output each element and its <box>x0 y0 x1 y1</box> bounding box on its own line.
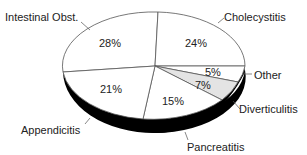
label-pancreatitis: Pancreatitis <box>187 141 244 153</box>
leader-appendicitis <box>85 118 90 124</box>
label-appendicitis: Appendicitis <box>21 124 80 136</box>
pct-diverticulitis: 7% <box>195 79 211 91</box>
pct-cholecystitis: 24% <box>185 37 207 49</box>
pct-pancreatitis: 15% <box>162 95 184 107</box>
leader-pancreatitis <box>185 132 188 140</box>
pct-intestinal-obst: 28% <box>99 37 121 49</box>
label-cholecystitis: Cholecystitis <box>224 11 286 23</box>
leader-intestinal-obst <box>81 22 90 30</box>
label-diverticulitis: Diverticulitis <box>239 103 298 115</box>
label-intestinal-obst: Intestinal Obst. <box>5 11 78 23</box>
label-other: Other <box>254 69 282 81</box>
pct-appendicitis: 21% <box>100 83 122 95</box>
pct-other: 5% <box>205 66 221 78</box>
